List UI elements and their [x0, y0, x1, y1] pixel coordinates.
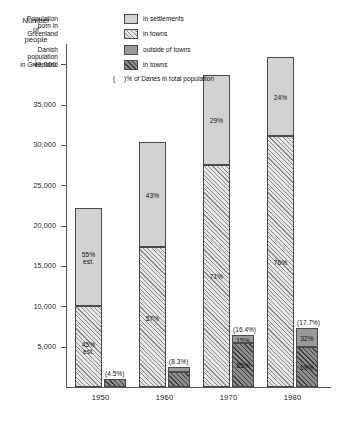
legend-note-row: ( )% of Danes in total population [58, 75, 248, 86]
legend-group2-label-line-2: population [0, 53, 58, 60]
bar-segment-danish-towns: 85% [232, 343, 254, 387]
bar-segment-greenlandic-settlements: 55%est. [75, 208, 102, 306]
legend-swatch-danish-towns [124, 60, 138, 70]
bar-segment-danish-outside: 32% [296, 328, 318, 347]
x-axis-tick-label-1970: 1970 [204, 394, 254, 402]
y-axis-tick [61, 347, 66, 348]
segment-percent-label: 32% [297, 335, 317, 342]
legend-note-text: )% of Danes in total population [124, 75, 214, 82]
y-axis-tick-label: 5,000 [14, 343, 56, 350]
danish-share-annotation: (4.5%) [105, 370, 124, 377]
bar-segment-greenlandic-towns: 57% [139, 247, 166, 387]
bar-segment-greenlandic-settlements: 24% [267, 57, 294, 136]
y-axis-tick [61, 105, 66, 106]
y-axis-tick [61, 226, 66, 227]
segment-percent-label: est. [76, 258, 101, 265]
segment-percent-label: 24% [268, 94, 293, 101]
segment-percent-label: 57% [140, 315, 165, 322]
segment-percent-label: 43% [140, 192, 165, 199]
legend-swatch-towns [124, 29, 138, 39]
bar-segment-danish-towns [168, 372, 190, 387]
segment-percent-label: 71% [204, 273, 229, 280]
segment-percent-label: 55% [76, 251, 101, 258]
legend-group1-label-line-3: Greenland [0, 30, 58, 37]
y-axis-tick [61, 145, 66, 146]
y-axis-tick-label: 25,000 [14, 182, 56, 189]
bar-segment-greenlandic-towns: 71% [203, 165, 230, 387]
bar-segment-danish-outside [168, 367, 190, 373]
segment-percent-label: 68% [297, 364, 317, 371]
legend-label-in-towns: in towns [143, 30, 167, 37]
bar-segment-greenlandic-settlements: 43% [139, 142, 166, 248]
bar-segment-greenlandic-towns: 45%est. [75, 306, 102, 387]
segment-percent-label: 45% [76, 341, 101, 348]
bar-segment-greenlandic-settlements: 29% [203, 75, 230, 165]
legend-group2-label-line-3: in Greenland [0, 61, 58, 68]
legend-note-paren: ( [113, 75, 115, 82]
x-axis-tick-label-1960: 1960 [140, 394, 190, 402]
danish-share-annotation: (17.7%) [297, 319, 320, 326]
y-axis-line [66, 44, 67, 387]
segment-percent-label: 76% [268, 259, 293, 266]
y-axis-tick-label: 10,000 [14, 303, 56, 310]
segment-percent-label: 15% [233, 337, 253, 343]
bar-segment-danish-outside: 15% [232, 335, 254, 343]
y-axis-tick [61, 185, 66, 186]
legend-label-danish-in-towns: in towns [143, 61, 167, 68]
x-axis-tick-label-1980: 1980 [268, 394, 318, 402]
y-axis-tick [61, 266, 66, 267]
legend-swatch-danish-outside [124, 45, 138, 55]
legend-group1-label-line-2: born in [0, 22, 58, 29]
segment-percent-label: 85% [233, 362, 253, 369]
y-axis-tick-label: 15,000 [14, 262, 56, 269]
y-axis-tick [61, 64, 66, 65]
x-axis-line [66, 387, 331, 388]
y-axis-tick [61, 306, 66, 307]
bar-segment-danish-towns [104, 379, 126, 387]
segment-percent-label: est. [76, 348, 101, 355]
bar-segment-greenlandic-towns: 76% [267, 136, 294, 387]
danish-share-annotation: (8.3%) [169, 358, 188, 365]
bar-segment-danish-towns: 68% [296, 347, 318, 387]
danish-share-annotation: (16.4%) [233, 326, 256, 333]
segment-percent-label: 29% [204, 117, 229, 124]
population-stacked-bar-chart: Number of people 5,00010,00015,00020,000… [0, 0, 346, 443]
legend-swatch-settlements [124, 14, 138, 24]
x-axis-tick-label-1950: 1950 [76, 394, 126, 402]
legend-label-in-settlements: in settlements [143, 15, 184, 22]
legend-label-outside-of-towns: outside of towns [143, 46, 191, 53]
y-axis-tick-label: 20,000 [14, 222, 56, 229]
y-axis-tick-label: 35,000 [14, 101, 56, 108]
y-axis-tick-label: 30,000 [14, 141, 56, 148]
